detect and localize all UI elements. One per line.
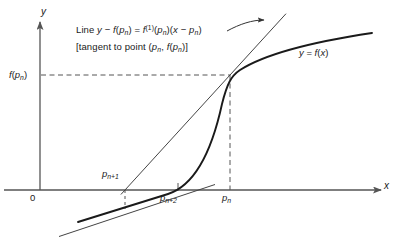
eq-sub1: n <box>125 29 129 36</box>
eq-sub3: n <box>194 29 198 36</box>
point-label-p-n: pn <box>222 192 231 203</box>
point-label-p-n-plus-1: pn+1 <box>102 168 119 179</box>
eq-p2: p <box>157 24 162 35</box>
pointer-arrow-icon <box>227 20 264 31</box>
tangent-equation-text: Line y − f(pn) = f(1)(pn)(x − pn) <box>76 24 202 35</box>
y-axis-label: y <box>41 6 46 17</box>
br-sub2: n <box>178 46 182 53</box>
br-prefix: [tangent to point ( <box>76 41 152 52</box>
eq-sub2: n <box>163 29 167 36</box>
fpn-close: ) <box>24 69 27 80</box>
pn2-subscript: n+2 <box>165 197 177 204</box>
tangent-bracket-text: [tangent to point (pn, f(pn)] <box>76 41 188 52</box>
eq-p1: p <box>119 24 124 35</box>
eq-minus2: − <box>178 24 189 35</box>
tangent-line-at-pn-plus-1 <box>59 185 215 237</box>
point-label-p-n-plus-2: pn+2 <box>160 192 177 203</box>
curve-label-close: ) <box>325 47 328 58</box>
eq-prefix: Line <box>76 24 97 35</box>
y-value-label-fpn: f(pn) <box>9 69 27 80</box>
fpn-sub: n <box>20 74 24 81</box>
eq-superscript: (1) <box>146 24 154 31</box>
pn1-subscript: n+1 <box>107 173 119 180</box>
origin-label: 0 <box>30 192 35 203</box>
eq-paren2: ) = <box>128 24 142 35</box>
x-axis-label: x <box>384 180 389 191</box>
curve-label: y = f(x) <box>299 47 328 58</box>
figure-canvas <box>0 0 409 244</box>
eq-minus1: − <box>102 24 113 35</box>
curve-label-eq: = <box>304 47 315 58</box>
eq-paren5: ) <box>198 24 201 35</box>
pn-subscript: n <box>227 197 231 204</box>
br-suffix: )] <box>182 41 188 52</box>
newtons-method-figure: y x 0 f(pn) pn+1 pn+2 pn y = f(x) Line y… <box>0 0 409 244</box>
br-sub1: n <box>157 46 161 53</box>
